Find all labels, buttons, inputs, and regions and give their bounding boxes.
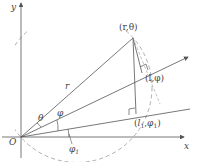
angle-phi-arc	[57, 120, 58, 131]
label-r-theta: (r,θ)	[119, 22, 138, 32]
angle-phi1-arc	[68, 129, 69, 137]
label-l-phi: (l,φ)	[145, 73, 164, 83]
label-l1-phi1: (l1,φ1)	[134, 118, 161, 129]
angle-phi-label: φ	[57, 108, 64, 118]
right-angle-l1	[129, 108, 135, 115]
chord	[133, 38, 160, 104]
angle-phi1-leader	[69, 134, 72, 144]
ray-phi1	[21, 109, 190, 137]
segment-r-label: r	[65, 81, 70, 91]
x-axis-label: x	[184, 141, 189, 151]
angle-phi1-label: φ1	[69, 144, 79, 155]
angle-theta-arc	[37, 123, 41, 127]
polar-diagram: (r,θ) (l,φ) (l1,φ1) y x O r θ φ φ1	[0, 0, 200, 162]
y-axis-label: y	[10, 2, 17, 12]
origin-label: O	[9, 137, 17, 147]
ray-phi	[21, 57, 188, 137]
angle-theta-label: θ	[38, 113, 44, 123]
